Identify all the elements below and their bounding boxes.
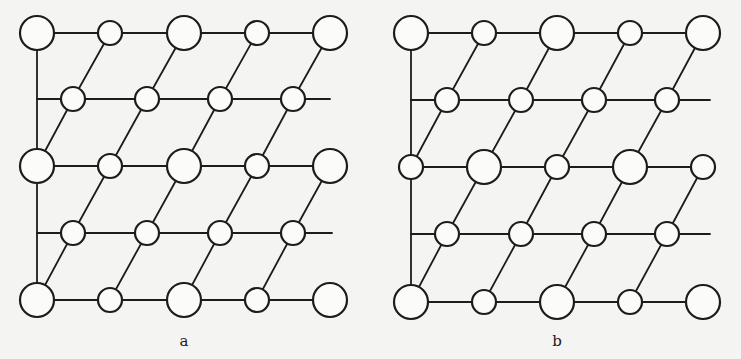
small-atom (61, 87, 85, 111)
large-atom (313, 149, 347, 183)
large-atom (613, 150, 647, 184)
large-atom (20, 283, 54, 317)
small-atom (618, 290, 642, 314)
small-atom (509, 222, 533, 246)
small-atom (245, 154, 269, 178)
small-atom (509, 88, 533, 112)
large-atom (167, 149, 201, 183)
large-atom (20, 149, 54, 183)
small-atom (281, 221, 305, 245)
small-atom (472, 290, 496, 314)
small-atom (655, 88, 679, 112)
large-atom (686, 16, 720, 50)
large-atom (394, 285, 428, 319)
panel-label-a: a (180, 332, 189, 350)
small-atom (208, 87, 232, 111)
small-atom (691, 155, 715, 179)
small-atom (655, 222, 679, 246)
small-atom (98, 21, 122, 45)
small-atom (245, 288, 269, 312)
small-atom (399, 155, 423, 179)
small-atom (61, 221, 85, 245)
large-atom (686, 285, 720, 319)
small-atom (135, 87, 159, 111)
large-atom (313, 283, 347, 317)
large-atom (167, 16, 201, 50)
panel-b-lattice: b (394, 16, 720, 350)
small-atom (435, 222, 459, 246)
small-atom (281, 87, 305, 111)
small-atom (545, 155, 569, 179)
panel-a-lattice: a (20, 16, 347, 350)
small-atom (208, 221, 232, 245)
lattice-figure: a b (0, 0, 741, 359)
large-atom (167, 283, 201, 317)
small-atom (245, 21, 269, 45)
large-atom (467, 150, 501, 184)
large-atom (394, 16, 428, 50)
small-atom (98, 154, 122, 178)
large-atom (540, 16, 574, 50)
small-atom (618, 21, 642, 45)
small-atom (135, 221, 159, 245)
panel-label-b: b (552, 332, 562, 350)
small-atom (98, 288, 122, 312)
large-atom (20, 16, 54, 50)
small-atom (582, 222, 606, 246)
small-atom (435, 88, 459, 112)
large-atom (540, 285, 574, 319)
small-atom (472, 21, 496, 45)
large-atom (313, 16, 347, 50)
small-atom (582, 88, 606, 112)
